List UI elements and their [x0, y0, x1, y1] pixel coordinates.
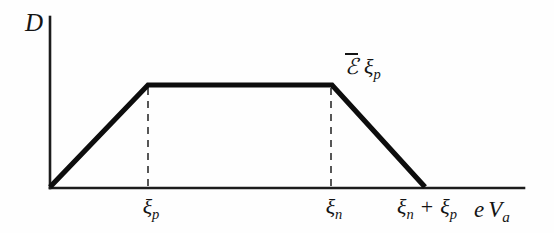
tick-xi-symbol-second: ξ [440, 194, 449, 219]
tick-xi-symbol: ξ [326, 194, 335, 219]
x-tick-label-xi-sum: ξn+ξp [397, 196, 457, 221]
x-tick-label-xi-n: ξn [326, 196, 343, 221]
tick-xi-subscript-second: p [450, 206, 457, 222]
figure-container: D ℰξp ξp ξn ξn+ξp eVa [0, 0, 554, 233]
tick-plus-operator: + [421, 194, 433, 219]
plateau-xi-subscript: p [373, 66, 380, 82]
x-tick-label-xi-p: ξp [143, 196, 160, 221]
plateau-height-label: ℰξp [345, 56, 381, 81]
tick-xi-subscript: p [152, 206, 159, 222]
dos-trapezoid-curve [50, 85, 425, 187]
epsilon-bar-symbol: ℰ [345, 56, 358, 78]
x-axis-label-v: V [488, 197, 502, 222]
x-axis-label: eVa [474, 198, 510, 224]
tick-xi-symbol: ξ [143, 194, 152, 219]
plot-canvas [0, 0, 554, 233]
tick-xi-subscript-first: n [407, 206, 414, 222]
y-axis-label: D [25, 10, 44, 35]
plateau-xi-symbol: ξ [364, 54, 373, 79]
x-axis-label-e: e [474, 197, 484, 222]
tick-xi-subscript: n [335, 206, 342, 222]
x-axis-label-subscript: a [502, 208, 510, 225]
